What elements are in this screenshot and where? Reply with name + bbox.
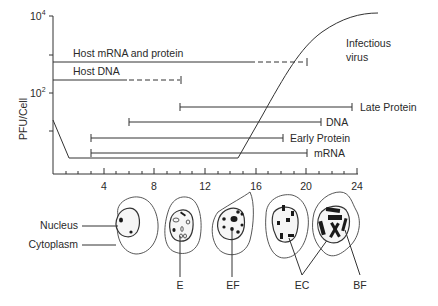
y-tick-10-2: 102 xyxy=(30,86,46,99)
label-stage-e: E xyxy=(176,279,183,291)
x-ticks xyxy=(66,168,357,174)
label-stage-bf: BF xyxy=(353,279,366,291)
label-mrna: mRNA xyxy=(314,147,345,159)
x-tick-12: 12 xyxy=(199,180,211,192)
label-virus: virus xyxy=(346,51,368,63)
cell-uninfected xyxy=(116,197,158,254)
bar-host-dna xyxy=(53,76,181,84)
x-tick-8: 8 xyxy=(151,180,157,192)
chromatin-blob-icon xyxy=(119,217,123,222)
x-tick-24: 24 xyxy=(351,180,363,192)
label-stage-ef: EF xyxy=(226,279,239,291)
label-cytoplasm: Cytoplasm xyxy=(28,238,78,250)
x-tick-16: 16 xyxy=(250,180,262,192)
cell-stage-ec xyxy=(266,195,309,258)
label-host-mrna: Host mRNA and protein xyxy=(73,47,183,59)
x-tick-20: 20 xyxy=(300,180,312,192)
label-late-protein: Late Protein xyxy=(360,101,417,113)
label-host-dna: Host DNA xyxy=(73,65,120,77)
cell-stage-ef xyxy=(212,192,253,255)
label-stage-ec: EC xyxy=(295,279,310,291)
x-tick-4: 4 xyxy=(101,180,107,192)
bar-early-protein xyxy=(91,134,283,142)
cell-stage-e xyxy=(165,197,201,254)
label-nucleus: Nucleus xyxy=(40,219,78,231)
bar-dna xyxy=(129,118,321,126)
y-axis-label: PFU/Cell xyxy=(17,98,29,140)
y-ticks xyxy=(49,16,53,131)
virus-growth-diagram: 104 102 PFU/Cell 4 8 12 16 20 24 xyxy=(0,0,438,306)
label-early-protein: Early Protein xyxy=(290,132,350,144)
bar-mrna xyxy=(91,149,307,157)
y-tick-10-4: 104 xyxy=(30,9,46,22)
label-infectious: Infectious xyxy=(346,37,391,49)
label-dna: DNA xyxy=(326,116,348,128)
stage-bf-pointer xyxy=(345,230,360,275)
cell-stage-bf xyxy=(313,192,360,256)
